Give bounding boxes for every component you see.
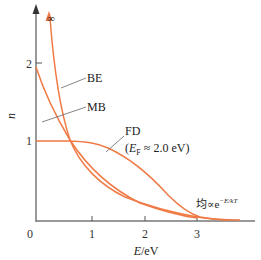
fd-fermi-label: (EF ≈ 2.0 eV) — [125, 141, 189, 157]
x-tick-label-0: 0 — [27, 227, 33, 241]
tail-exponent: −E/kT — [219, 197, 238, 205]
x-tick-label-3: 3 — [194, 227, 200, 241]
y-tick-label-2: 2 — [26, 57, 32, 71]
x-axis-unit: /eV — [141, 244, 159, 258]
curve-be — [50, 18, 230, 220]
x-tick-label-1: 1 — [89, 227, 95, 241]
fd-label: FD — [125, 124, 141, 138]
x-axis-label: E/eV — [133, 244, 159, 258]
be-label: BE — [87, 71, 102, 85]
fd-leader — [106, 136, 124, 152]
y-axis-label: n — [4, 113, 18, 119]
tail-prefix: 均∝e — [196, 198, 219, 210]
be-leader — [61, 78, 86, 88]
y-tick-label-1: 1 — [26, 134, 32, 148]
infinity-label: ∞ — [47, 12, 55, 24]
mb-label: MB — [87, 100, 106, 114]
y-axis-arrow-icon — [33, 4, 40, 14]
fd-ef-value: ≈ 2.0 eV) — [141, 141, 190, 155]
curves — [36, 18, 240, 220]
tail-annotation: 均∝e−E/kT — [196, 197, 238, 210]
axes — [33, 4, 256, 222]
distribution-chart: 0 1 2 3 2 1 n E/eV ∞ BE MB FD (EF ≈ 2.0 … — [0, 0, 261, 260]
x-tick-label-2: 2 — [142, 227, 148, 241]
